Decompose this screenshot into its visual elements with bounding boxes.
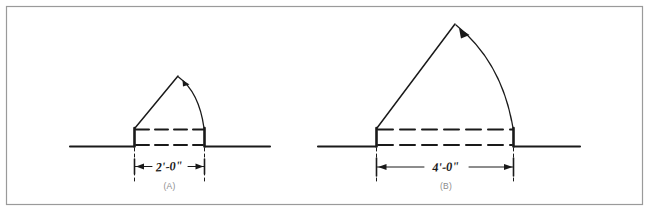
- figure-frame: 2'-0" (A): [0, 0, 649, 211]
- door-swing-diagram: 2'-0" (A): [0, 0, 649, 211]
- dimension-label-b: 4'-0": [431, 159, 460, 174]
- figure-border: [7, 7, 643, 205]
- dimension-label-a: 2'-0": [154, 159, 183, 175]
- caption-a: (A): [163, 181, 175, 191]
- caption-b: (B): [440, 181, 452, 191]
